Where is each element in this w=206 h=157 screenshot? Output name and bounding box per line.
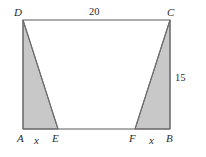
- segment-label-fb: x: [149, 135, 154, 146]
- measure-label-right: 15: [175, 73, 186, 84]
- geometry-figure: D C A E F B x x 20 15: [0, 0, 206, 157]
- vertex-label-a: A: [17, 133, 24, 144]
- vertex-label-c: C: [167, 7, 174, 18]
- segment-label-ae: x: [34, 135, 39, 146]
- vertex-label-e: E: [52, 133, 59, 144]
- vertex-label-d: D: [14, 7, 22, 18]
- vertex-label-b: B: [166, 133, 173, 144]
- vertex-label-f: F: [129, 133, 136, 144]
- measure-label-top: 20: [89, 7, 100, 18]
